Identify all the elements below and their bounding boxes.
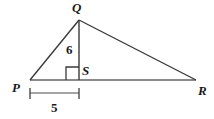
measure-label-base-segment: 5: [51, 101, 58, 114]
measure-label-altitude: 6: [66, 43, 73, 56]
vertex-label-p: P: [12, 81, 20, 94]
right-angle-marker-icon: [66, 67, 79, 80]
vertex-label-q: Q: [72, 1, 81, 14]
geometry-figure: Q P R S 6 5: [0, 0, 214, 119]
vertex-label-r: R: [198, 84, 207, 97]
segment-qr: [79, 20, 196, 80]
vertex-label-s: S: [82, 64, 89, 77]
triangle-diagram-svg: [0, 0, 214, 119]
